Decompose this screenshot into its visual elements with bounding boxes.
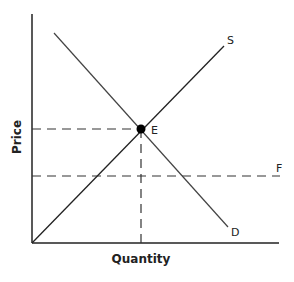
x-axis-title: Quantity: [112, 252, 171, 266]
supply-curve: [32, 46, 224, 243]
equilibrium-point: [137, 125, 146, 134]
s-label: S: [227, 34, 234, 47]
supply-demand-diagram: S E F D Quantity Price: [0, 0, 294, 282]
f-label: F: [276, 162, 282, 175]
y-axis-title: Price: [10, 120, 24, 154]
diagram-svg: S E F D Quantity Price: [0, 0, 294, 282]
e-label: E: [151, 124, 158, 137]
d-label: D: [231, 226, 239, 239]
